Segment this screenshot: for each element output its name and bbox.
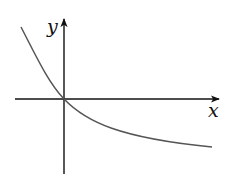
y-axis-label: y <box>46 15 58 37</box>
function-graph: y x <box>0 0 235 183</box>
x-axis-label: x <box>208 99 219 121</box>
function-curve <box>21 27 212 147</box>
